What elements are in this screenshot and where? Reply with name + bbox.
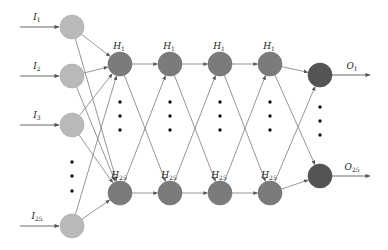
hidden-label-bottom: H25 (160, 170, 177, 181)
hidden-ellipsis-dot (218, 128, 221, 131)
edge-input-to-hidden (77, 87, 116, 181)
hidden-label-bottom: H25 (260, 170, 277, 181)
input-node (60, 113, 84, 137)
neural-network-diagram: I1I2I3I25H1H25H1H25H1H25H1H25O1O25 (0, 0, 388, 250)
hidden-ellipsis-dot (268, 100, 271, 103)
output-label: O25 (344, 162, 359, 173)
hidden-label-top: H1 (162, 41, 175, 52)
hidden-node-bottom (258, 181, 282, 205)
input-ellipsis-dot (70, 174, 73, 177)
input-label: I2 (32, 61, 41, 72)
edge-input-to-hidden (82, 34, 111, 56)
edge-hidden-to-output (275, 87, 315, 182)
hidden-label-bottom: H25 (210, 170, 227, 181)
ellipsis-dots (70, 100, 321, 192)
output-node (308, 63, 332, 87)
input-ellipsis-dot (70, 189, 73, 192)
hidden-node-top (158, 52, 182, 76)
hidden-node-top (108, 52, 132, 76)
input-label: I3 (32, 110, 41, 121)
input-node (60, 214, 84, 238)
hidden-label-top: H1 (212, 41, 225, 52)
hidden-label-top: H1 (112, 41, 125, 52)
output-ellipsis-dot (318, 105, 321, 108)
hidden-ellipsis-dot (168, 100, 171, 103)
hidden-ellipsis-dot (118, 100, 121, 103)
edge-input-to-hidden (82, 200, 110, 219)
edge-hidden-to-output (275, 75, 315, 165)
output-ellipsis-dot (318, 119, 321, 122)
hidden-ellipsis-dot (218, 114, 221, 117)
hidden-ellipsis-dot (118, 114, 121, 117)
hidden-ellipsis-dot (168, 114, 171, 117)
hidden-node-top (258, 52, 282, 76)
hidden-ellipsis-dot (168, 128, 171, 131)
hidden-node-bottom (108, 181, 132, 205)
output-label: O1 (346, 61, 357, 72)
input-label: I1 (32, 12, 40, 23)
hidden-ellipsis-dot (268, 128, 271, 131)
hidden-node-bottom (158, 181, 182, 205)
edge-hidden-to-output (281, 180, 308, 189)
hidden-ellipsis-dot (118, 128, 121, 131)
input-label: I25 (30, 211, 42, 222)
input-node (60, 15, 84, 39)
hidden-ellipsis-dot (218, 100, 221, 103)
input-node (60, 64, 84, 88)
hidden-node-top (208, 52, 232, 76)
edge-hidden-to-output (282, 67, 308, 73)
hidden-node-bottom (208, 181, 232, 205)
edge-input-to-hidden (84, 67, 108, 73)
hidden-label-top: H1 (262, 41, 275, 52)
hidden-ellipsis-dot (268, 114, 271, 117)
output-ellipsis-dot (318, 133, 321, 136)
edge-input-to-hidden (79, 135, 113, 183)
hidden-label-bottom: H25 (110, 170, 127, 181)
output-node (308, 164, 332, 188)
input-ellipsis-dot (70, 160, 73, 163)
